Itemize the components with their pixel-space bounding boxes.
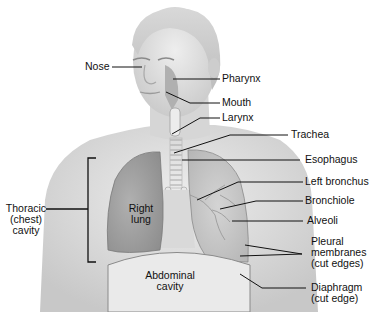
label-larynx: Larynx	[222, 112, 254, 123]
respiratory-diagram: Nose Pharynx Mouth Larynx Trachea Esopha…	[0, 0, 375, 312]
label-right-lung-line2: lung	[124, 214, 158, 225]
label-pleural-line3: (cut edges)	[311, 258, 366, 269]
label-esophagus: Esophagus	[305, 154, 358, 165]
label-left-bronchus: Left bronchus	[305, 176, 369, 187]
label-pharynx: Pharynx	[222, 73, 261, 84]
label-nose: Nose	[85, 61, 110, 72]
label-trachea: Trachea	[291, 129, 329, 140]
label-thoracic-cavity: Thoracic (chest) cavity	[4, 203, 48, 236]
label-diaphragm-line2: (cut edge)	[311, 293, 362, 304]
label-thoracic-line3: cavity	[4, 225, 48, 236]
label-diaphragm: Diaphragm (cut edge)	[311, 282, 362, 304]
label-abdominal-line2: cavity	[140, 281, 200, 292]
label-right-lung: Right lung	[124, 203, 158, 225]
label-mouth: Mouth	[222, 97, 251, 108]
label-bronchiole: Bronchiole	[305, 195, 355, 206]
label-abdominal-cavity: Abdominal cavity	[140, 270, 200, 292]
label-pleural-membranes: Pleural membranes (cut edges)	[311, 236, 366, 269]
label-alveoli: Alveoli	[307, 215, 338, 226]
